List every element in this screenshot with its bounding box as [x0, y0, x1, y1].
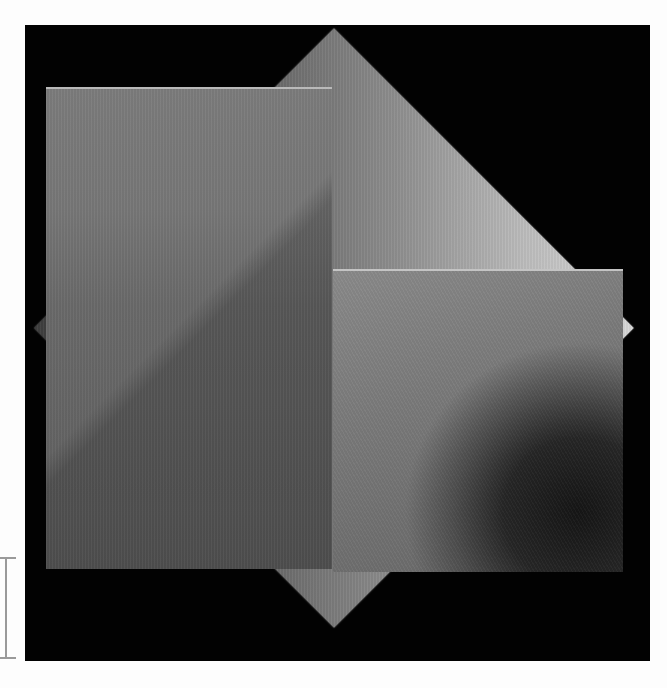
diamond-overlap-shade — [46, 89, 332, 569]
i-beam-top-cap — [0, 557, 16, 559]
left-rectangle-panel — [46, 87, 332, 569]
right-square-panel — [333, 269, 623, 572]
i-beam-bottom-cap — [0, 657, 16, 659]
i-beam-stem — [5, 557, 7, 659]
artwork-frame — [25, 25, 650, 661]
i-beam-cursor-icon — [0, 557, 17, 659]
